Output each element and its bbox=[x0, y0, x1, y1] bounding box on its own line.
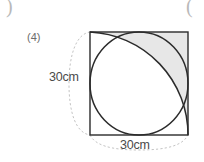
geometry-figure bbox=[0, 0, 204, 162]
height-dimension-label: 30cm bbox=[49, 70, 79, 84]
figure-page: ) ( (4) 30cm 30cm bbox=[0, 0, 204, 162]
width-dimension-label: 30cm bbox=[120, 138, 150, 152]
